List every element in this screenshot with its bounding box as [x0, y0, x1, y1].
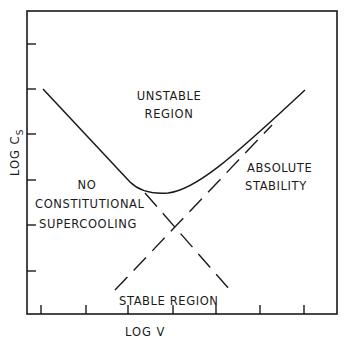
- no-cs-label-2: CONSTITUTIONAL: [35, 197, 145, 211]
- y-axis-label-subscript: S: [15, 129, 25, 136]
- stable-region-label: STABLE REGION: [119, 294, 219, 308]
- unstable-region-label-1: UNSTABLE: [137, 89, 202, 103]
- y-axis-label-main: LOG C: [8, 135, 22, 176]
- absolute-stability-label-2: STABILITY: [245, 179, 307, 193]
- absolute-stability-label-1: ABSOLUTE: [247, 161, 312, 175]
- no-cs-label-1: NO: [78, 178, 97, 192]
- svg-text:LOG CS: LOG CS: [8, 129, 25, 176]
- x-axis-label: LOG V: [125, 325, 165, 339]
- no-cs-label-3: SUPERCOOLING: [39, 217, 137, 231]
- y-axis-label: LOG CS: [8, 129, 25, 176]
- stability-diagram: UNSTABLE REGION NO CONSTITUTIONAL SUPERC…: [0, 0, 344, 345]
- y-axis-ticks: [27, 44, 36, 271]
- supercooling-dashed-line: [145, 193, 230, 290]
- unstable-region-label-2: REGION: [145, 107, 194, 121]
